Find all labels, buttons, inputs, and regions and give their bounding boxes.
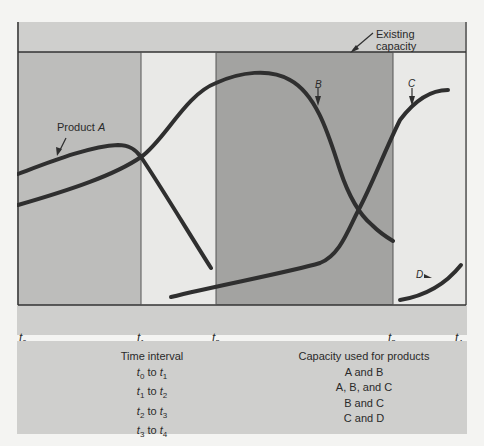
- table-cell-products: A, B, and C: [279, 380, 449, 396]
- band-t3-t4: [393, 52, 466, 305]
- table-row: t2 to t3: [77, 404, 227, 424]
- band-t0-t1: [18, 52, 141, 305]
- chart-panel: Existing capacity Product A B C D t0 t1 …: [17, 22, 467, 335]
- time-interval-header: Time interval: [77, 349, 227, 365]
- chart-plot: [17, 22, 467, 335]
- time-interval-column: Time interval t0 to t1 t1 to t2 t2 to t3…: [77, 349, 227, 443]
- c-label: C: [408, 79, 415, 89]
- table-cell-products: C and D: [279, 411, 449, 427]
- capacity-label-line2: capacity: [376, 41, 416, 52]
- table-cell-products: B and C: [279, 396, 449, 412]
- capacity-column: Capacity used for products A and B A, B,…: [279, 349, 449, 427]
- table-row: t1 to t2: [77, 384, 227, 404]
- interval-table: Time interval t0 to t1 t1 to t2 t2 to t3…: [17, 341, 467, 434]
- table-row: t3 to t4: [77, 423, 227, 443]
- d-label: D: [416, 270, 423, 280]
- capacity-header: Capacity used for products: [279, 349, 449, 365]
- b-label: B: [315, 80, 322, 90]
- table-row: t0 to t1: [77, 365, 227, 385]
- capacity-label-line1: Existing: [376, 29, 415, 40]
- table-cell-products: A and B: [279, 365, 449, 381]
- product-a-label: Product A: [57, 122, 105, 133]
